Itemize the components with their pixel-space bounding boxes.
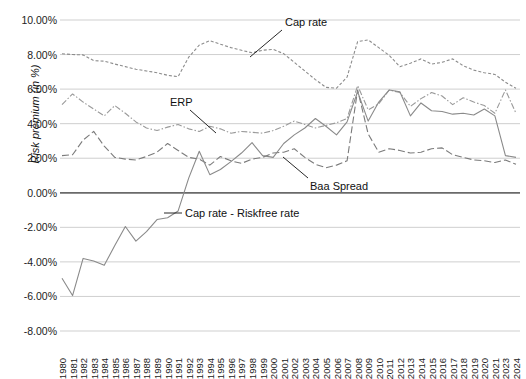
annotation-label: ERP: [170, 96, 193, 108]
annotation-leader: [250, 30, 282, 57]
annotation-leader-lines: [164, 30, 308, 213]
x-tick-label: 2004: [310, 358, 321, 379]
x-tick-label: 1999: [258, 358, 269, 379]
x-tick-label: 1993: [194, 358, 205, 379]
y-tick-label: -4.00%: [0, 257, 57, 267]
y-tick-label: -6.00%: [0, 291, 57, 301]
x-tick-label: 2016: [437, 358, 448, 379]
x-tick-label: 1990: [163, 358, 174, 379]
y-axis-title: Risk premium (in %): [29, 49, 41, 179]
x-tick-label: 1981: [68, 358, 79, 379]
x-tick-label: 2020: [479, 358, 490, 379]
x-tick-label: 2000: [268, 358, 279, 379]
series-group: [62, 40, 516, 296]
series-line-baa-spread: [62, 90, 516, 168]
x-tick-label: 2014: [416, 358, 427, 379]
x-tick-label: 1984: [99, 358, 110, 379]
x-tick-label: 2007: [342, 358, 353, 379]
x-tick-label: 1995: [215, 358, 226, 379]
x-tick-label: 1997: [236, 358, 247, 379]
gridlines: [60, 20, 520, 331]
y-tick-label: 0.00%: [0, 188, 57, 198]
x-tick-label: 2015: [427, 358, 438, 379]
x-tick-label: 1991: [173, 358, 184, 379]
x-tick-label: 2002: [289, 358, 300, 379]
series-line-cap-rate: [62, 40, 516, 88]
x-tick-label: 2013: [405, 358, 416, 379]
x-tick-label: 2017: [448, 358, 459, 379]
x-tick-label: 2018: [458, 358, 469, 379]
risk-premium-chart: 10.00%8.00%6.00%4.00%2.00%0.00%-2.00%-4.…: [0, 0, 526, 379]
x-tick-label: 1988: [141, 358, 152, 379]
x-tick-label: 1986: [120, 358, 131, 379]
y-tick-label: -8.00%: [0, 326, 57, 336]
annotation-label: Cap rate - Riskfree rate: [185, 207, 299, 219]
series-line-erp: [62, 86, 516, 134]
x-tick-label: 1980: [57, 358, 68, 379]
annotation-label: Baa Spread: [310, 180, 368, 192]
x-tick-label: 2011: [384, 359, 395, 379]
x-axis-ticks: 1980198119821983198419851986198719881989…: [60, 318, 520, 379]
x-tick-label: 2006: [332, 358, 343, 379]
x-tick-label: 2008: [353, 358, 364, 379]
x-tick-label: 2009: [363, 358, 374, 379]
annotation-leader: [283, 157, 308, 178]
x-tick-label: 1989: [152, 358, 163, 379]
x-tick-label: 1982: [78, 358, 89, 379]
y-tick-label: 10.00%: [0, 15, 57, 25]
x-tick-label: 1998: [247, 358, 258, 379]
y-tick-label: -2.00%: [0, 222, 57, 232]
x-tick-label: 2023: [500, 358, 511, 379]
x-tick-label: 2024: [511, 358, 522, 379]
x-tick-label: 2005: [321, 358, 332, 379]
annotation-label: Cap rate: [285, 16, 327, 28]
